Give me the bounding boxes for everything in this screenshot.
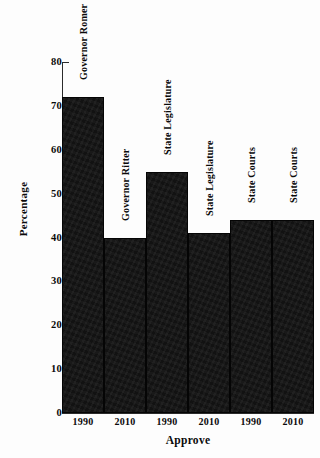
y-axis-tick-label-wrap: 30 [0,276,62,286]
x-axis-tick-label: 2010 [263,416,320,427]
bar-annotation-label: State Legislature [162,79,173,155]
y-axis-tick-label: 60 [40,145,62,155]
y-axis-tick-label: 20 [40,320,62,330]
y-axis-tick-label: 10 [40,364,62,374]
bar-annotation-label: State Legislature [204,140,215,216]
bar[interactable] [62,97,104,413]
bar[interactable] [188,233,230,413]
y-axis-tick-label-wrap: 60 [0,145,62,155]
y-axis-tick-label: 30 [40,276,62,286]
y-axis-tick-label-wrap: 20 [0,320,62,330]
bar-annotation-label: State Courts [288,147,299,203]
y-axis-title: Percentage [17,169,29,249]
y-axis-tick-label: 70 [40,101,62,111]
bar-slot: State Courts [272,62,314,413]
bar-chart: 80706050403020100 Percentage Governor Ro… [0,0,320,458]
bar-slot: Governor Romer [62,62,104,413]
bar-slot: State Legislature [188,62,230,413]
y-axis-tick-label-wrap: 10 [0,364,62,374]
bar-slot: Governor Ritter [104,62,146,413]
bar-annotation-label: Governor Ritter [120,148,131,221]
y-axis-tick-label-wrap: 70 [0,101,62,111]
bar[interactable] [230,220,272,413]
bar[interactable] [104,238,146,414]
bar[interactable] [272,220,314,413]
y-axis-tick-label-wrap: 80 [0,57,62,67]
x-axis-title: Approve [62,434,314,446]
bar[interactable] [146,172,188,413]
bar-slot: State Legislature [146,62,188,413]
y-axis-tick-label: 80 [40,57,62,67]
bar-annotation-label: State Courts [246,147,257,203]
y-axis-tick-label-wrap: 50 [0,189,62,199]
y-axis-tick-label: 40 [40,233,62,243]
y-axis-tick [62,413,69,414]
bar-annotation-label: Governor Romer [78,4,89,80]
bar-slot: State Courts [230,62,272,413]
plot-area: Governor RomerGovernor RitterState Legis… [62,62,314,413]
x-axis-line [62,413,314,414]
y-axis-tick-label: 50 [40,189,62,199]
y-axis-tick-label-wrap: 40 [0,233,62,243]
